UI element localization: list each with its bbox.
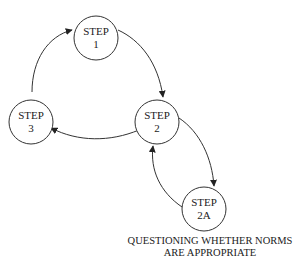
caption-line1: QUESTIONING WHETHER NORMS bbox=[128, 235, 293, 246]
edge-step2-to-step2a bbox=[179, 118, 214, 186]
diagram-svg: STEP 1 STEP 2 STEP 3 STEP 2A QUESTIONING… bbox=[0, 0, 300, 261]
caption-line2: ARE APPROPRIATE bbox=[164, 247, 256, 258]
node-label-line2: 1 bbox=[93, 38, 99, 50]
edge-step3-to-step1 bbox=[32, 30, 72, 92]
node-label-line2: 2A bbox=[197, 209, 211, 221]
node-step3: STEP 3 bbox=[9, 100, 53, 144]
node-step2: STEP 2 bbox=[135, 100, 179, 144]
edge-step2-to-step3 bbox=[51, 128, 139, 139]
node-step1: STEP 1 bbox=[74, 16, 118, 60]
node-label-line1: STEP bbox=[18, 109, 44, 121]
node-step2a: STEP 2A bbox=[182, 187, 226, 231]
node-label-line1: STEP bbox=[144, 109, 170, 121]
node-label-line2: 2 bbox=[154, 122, 160, 134]
edge-step2a-to-step2 bbox=[152, 146, 182, 207]
node-label-line1: STEP bbox=[83, 25, 109, 37]
node-label-line2: 3 bbox=[28, 122, 34, 134]
node-label-line1: STEP bbox=[191, 196, 217, 208]
edge-step1-to-step2 bbox=[118, 30, 163, 97]
diagram-canvas: STEP 1 STEP 2 STEP 3 STEP 2A QUESTIONING… bbox=[0, 0, 300, 261]
